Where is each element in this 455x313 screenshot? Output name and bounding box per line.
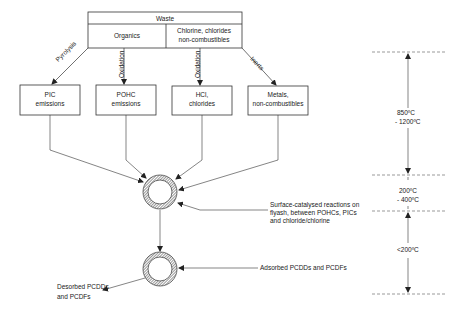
zone2-temp-line1: 200ºC <box>399 187 417 195</box>
surface-reactions-line2: flyash, between POHCs, PICs <box>270 209 357 217</box>
zone3-temp: <200ºC <box>397 246 419 254</box>
surface-reactions-line3: and chloride/chlorine <box>270 217 330 225</box>
flyash-particle-1 <box>143 175 177 209</box>
desorbed-line2: and PCDFs <box>57 293 91 301</box>
pic-line1: PIC <box>20 91 80 99</box>
adsorbed-label: Adsorbed PCDDs and PCDFs <box>260 264 347 272</box>
pohc-line2: emissions <box>96 100 156 108</box>
chlorine-label-1: Chlorine, chlorides <box>166 27 242 35</box>
zone1-temp-line2: - 1200ºC <box>395 118 421 126</box>
desorbed-line1: Desorbed PCDDs <box>57 283 109 291</box>
flyash-particle-2 <box>143 252 177 286</box>
zone2-temp-line2: - 400ºC <box>397 196 419 204</box>
oxidation-label-2: Oxidation <box>194 51 202 78</box>
hcl-line1: HCl, <box>172 91 232 99</box>
hcl-line2: chlorides <box>172 100 232 108</box>
metals-line2: non-combustibles <box>248 100 308 108</box>
metals-line1: Metals, <box>248 91 308 99</box>
chlorine-label-2: non-combustibles <box>166 36 242 44</box>
surface-reactions-line1: Surface-catalysed reactions on <box>270 201 359 209</box>
organics-label: Organics <box>88 32 166 40</box>
oxidation-label-1: Oxidation <box>118 51 126 78</box>
zone1-temp-line1: 850ºC <box>397 109 415 117</box>
pic-line2: emissions <box>20 100 80 108</box>
temperature-scale <box>372 52 445 294</box>
waste-title: Waste <box>88 15 242 23</box>
pohc-line1: POHC <box>96 91 156 99</box>
